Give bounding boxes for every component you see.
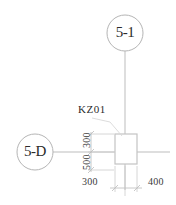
cad-drawing-canvas: 5-1 5-D KZ01 300 500 300 400 bbox=[0, 0, 176, 205]
dimension-label-horizontal-400: 400 bbox=[148, 177, 164, 187]
grid-bubble-label-left: 5-D bbox=[20, 144, 50, 159]
column-tag-leader-line bbox=[92, 118, 122, 136]
dimension-label-vertical-300: 300 bbox=[82, 132, 92, 148]
dimension-label-vertical-500: 500 bbox=[82, 154, 92, 170]
column-outline-kz01 bbox=[115, 134, 137, 164]
dimension-label-horizontal-300: 300 bbox=[82, 177, 98, 187]
column-tag-label: KZ01 bbox=[78, 104, 106, 115]
grid-bubble-label-top: 5-1 bbox=[110, 25, 140, 40]
